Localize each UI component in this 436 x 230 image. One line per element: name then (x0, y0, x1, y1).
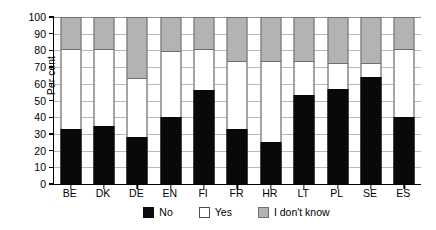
bar-group-pl (321, 17, 354, 184)
gray-square-icon (258, 207, 269, 218)
stacked-bar (194, 17, 215, 184)
bar-segment-dk (360, 17, 381, 64)
bar-segment-no (227, 129, 248, 184)
bar-segment-yes (194, 50, 215, 90)
bar-segment-yes (160, 52, 181, 117)
bar-group-se (354, 17, 387, 184)
bar-segment-yes (394, 50, 415, 117)
bar-segment-no (327, 89, 348, 184)
bar-segment-no (94, 126, 115, 184)
bar-segment-dk (260, 17, 281, 62)
white-square-icon (199, 207, 210, 218)
bar-group-dk (87, 17, 120, 184)
bar-group-hr (254, 17, 287, 184)
bar-group-fr (221, 17, 254, 184)
bar-group-fi (187, 17, 220, 184)
bar-segment-no (194, 90, 215, 184)
bar-segment-no (360, 77, 381, 184)
bar-segment-dk (194, 17, 215, 50)
stacked-bar (260, 17, 281, 184)
stacked-bar (360, 17, 381, 184)
bar-segment-no (160, 117, 181, 184)
stacked-bar (127, 17, 148, 184)
bar-segment-dk (327, 17, 348, 64)
black-square-icon (143, 207, 154, 218)
plot-area: 0102030405060708090100 (53, 17, 421, 185)
bar-segment-yes (127, 79, 148, 137)
bar-segment-yes (60, 50, 81, 128)
stacked-bar (327, 17, 348, 184)
bar-segment-no (394, 117, 415, 184)
bar-segment-dk (94, 17, 115, 50)
x-axis-label-lt: LT (287, 187, 320, 199)
stacked-bar (94, 17, 115, 184)
y-axis-tick-label: 50 (34, 95, 46, 106)
x-axis-label-en: EN (153, 187, 186, 199)
stacked-bar-chart: Per cent 0102030405060708090100 BEDKDEEN… (0, 0, 436, 230)
legend-item: Yes (199, 206, 232, 218)
bar-group-en (154, 17, 187, 184)
bar-segment-dk (160, 17, 181, 52)
y-axis-tick-label: 10 (34, 162, 46, 173)
x-axis-label-dk: DK (86, 187, 119, 199)
bar-segment-yes (227, 62, 248, 129)
y-axis-tick-label: 20 (34, 145, 46, 156)
bar-group-de (121, 17, 154, 184)
legend-item: I don't know (258, 206, 330, 218)
legend-item-label: Yes (215, 206, 232, 218)
bar-segment-dk (394, 17, 415, 50)
bar-segment-no (294, 95, 315, 184)
bar-segment-yes (94, 50, 115, 125)
y-axis-tick-label: 30 (34, 129, 46, 140)
bar-segment-dk (127, 17, 148, 79)
bar-group-lt (288, 17, 321, 184)
x-axis-label-fi: FI (186, 187, 219, 199)
x-axis-label-be: BE (53, 187, 86, 199)
bar-segment-yes (294, 62, 315, 95)
bar-group-be (54, 17, 87, 184)
bar-group-es (388, 17, 421, 184)
x-axis-label-hr: HR (253, 187, 286, 199)
y-axis-tick-label: 0 (40, 179, 46, 190)
bar-segment-no (260, 142, 281, 184)
bar-segment-yes (360, 64, 381, 77)
x-axis-label-fr: FR (220, 187, 253, 199)
bars-layer (54, 17, 421, 184)
y-axis-tick-label: 60 (34, 79, 46, 90)
bar-segment-yes (260, 62, 281, 142)
stacked-bar (227, 17, 248, 184)
bar-segment-dk (227, 17, 248, 62)
legend-item: No (143, 206, 172, 218)
bar-segment-yes (327, 64, 348, 89)
y-axis-tick-label: 40 (34, 112, 46, 123)
x-axis-label-es: ES (387, 187, 420, 199)
bar-segment-no (127, 137, 148, 184)
chart-legend: NoYesI don't know (53, 206, 420, 218)
y-axis-tick-label: 90 (34, 28, 46, 39)
x-axis-label-de: DE (120, 187, 153, 199)
stacked-bar (160, 17, 181, 184)
y-axis-tick-label: 100 (28, 12, 46, 23)
bar-segment-dk (294, 17, 315, 62)
y-axis-tick-label: 80 (34, 45, 46, 56)
x-axis-label-se: SE (353, 187, 386, 199)
stacked-bar (394, 17, 415, 184)
bar-segment-no (60, 129, 81, 184)
stacked-bar (60, 17, 81, 184)
stacked-bar (294, 17, 315, 184)
x-axis-label-pl: PL (320, 187, 353, 199)
bar-segment-dk (60, 17, 81, 50)
y-axis-tick-label: 70 (34, 62, 46, 73)
legend-item-label: I don't know (274, 206, 330, 218)
legend-item-label: No (159, 206, 172, 218)
x-axis-labels: BEDKDEENFIFRHRLTPLSEES (53, 187, 420, 199)
